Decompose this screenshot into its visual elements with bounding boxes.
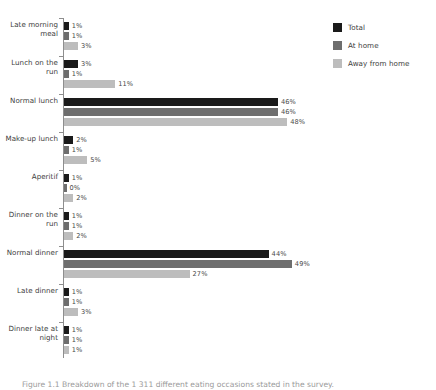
bar-row: 2%	[64, 232, 87, 240]
bar-value-label: 1%	[69, 288, 83, 296]
bar-row: 0%	[64, 184, 87, 192]
bar-away-from-home	[64, 270, 190, 278]
bar-group: Dinner on the run1%1%2%	[0, 208, 436, 246]
bar-group: Late dinner1%1%3%	[0, 284, 436, 322]
bar-row: 2%	[64, 194, 87, 202]
bar-value-label: 46%	[278, 108, 296, 116]
bar-row: 1%	[64, 146, 101, 154]
bar-stack: 1%1%3%	[64, 288, 92, 318]
bar-total	[64, 98, 278, 106]
chart-legend: TotalAt homeAway from home	[333, 17, 433, 71]
bar-row: 1%	[64, 212, 87, 220]
bar-value-label: 1%	[69, 22, 83, 30]
bar-value-label: 3%	[78, 308, 92, 316]
category-label: Late morning meal	[0, 20, 58, 38]
bar-row: 49%	[64, 260, 310, 268]
bar-value-label: 1%	[69, 222, 83, 230]
bar-group: Aperitif1%0%2%	[0, 170, 436, 208]
category-label: Late dinner	[0, 286, 58, 295]
axis-tick	[59, 94, 63, 95]
bar-away-from-home	[64, 194, 73, 202]
category-label: Dinner late at night	[0, 324, 58, 342]
legend-item[interactable]: Total	[333, 17, 433, 35]
bar-stack: 2%1%5%	[64, 136, 101, 166]
legend-item[interactable]: At home	[333, 35, 433, 53]
bar-total	[64, 136, 73, 144]
bar-group: Normal dinner44%49%27%	[0, 246, 436, 284]
bar-stack: 44%49%27%	[64, 250, 310, 280]
bar-row: 46%	[64, 98, 305, 106]
bar-value-label: 1%	[69, 70, 83, 78]
bar-value-label: 0%	[67, 184, 81, 192]
bar-row: 1%	[64, 222, 87, 230]
bar-value-label: 1%	[69, 346, 83, 354]
category-label: Lunch on the run	[0, 58, 58, 76]
bar-value-label: 1%	[69, 326, 83, 334]
category-label: Normal dinner	[0, 248, 58, 257]
bar-value-label: 11%	[115, 80, 133, 88]
bar-group: Dinner late at night1%1%1%	[0, 322, 436, 360]
axis-tick	[59, 170, 63, 171]
bar-away-from-home	[64, 232, 73, 240]
bar-away-from-home	[64, 308, 78, 316]
legend-label: At home	[342, 41, 379, 50]
figure-caption: Figure 1.1 Breakdown of the 1 311 differ…	[22, 379, 422, 390]
bar-value-label: 2%	[73, 136, 87, 144]
bar-value-label: 3%	[78, 42, 92, 50]
category-label: Dinner on the run	[0, 210, 58, 228]
bar-row: 5%	[64, 156, 101, 164]
bar-row: 1%	[64, 298, 92, 306]
bar-row: 1%	[64, 336, 82, 344]
bar-value-label: 2%	[73, 232, 87, 240]
bar-value-label: 2%	[73, 194, 87, 202]
bar-stack: 1%0%2%	[64, 174, 87, 204]
bar-at-home	[64, 108, 278, 116]
legend-swatch-icon	[333, 23, 342, 32]
axis-tick	[59, 132, 63, 133]
bar-group: Normal lunch46%46%48%	[0, 94, 436, 132]
legend-swatch-icon	[333, 59, 342, 68]
bar-away-from-home	[64, 118, 287, 126]
bar-value-label: 1%	[69, 298, 83, 306]
bar-value-label: 1%	[69, 336, 83, 344]
bar-value-label: 44%	[269, 250, 287, 258]
bar-row: 11%	[64, 80, 133, 88]
bar-total	[64, 250, 269, 258]
bar-row: 1%	[64, 288, 92, 296]
horizontal-bar-chart: Late morning meal1%1%3%Lunch on the run3…	[0, 0, 436, 390]
bar-total	[64, 60, 78, 68]
axis-tick	[59, 18, 63, 19]
bar-value-label: 48%	[287, 118, 305, 126]
bar-value-label: 3%	[78, 60, 92, 68]
bar-row: 1%	[64, 174, 87, 182]
bar-value-label: 1%	[69, 212, 83, 220]
category-label: Make-up lunch	[0, 134, 58, 143]
bar-row: 2%	[64, 136, 101, 144]
bar-value-label: 1%	[69, 174, 83, 182]
bar-away-from-home	[64, 42, 78, 50]
bar-row: 46%	[64, 108, 305, 116]
bar-row: 27%	[64, 270, 310, 278]
bar-stack: 1%1%1%	[64, 326, 82, 356]
bar-row: 3%	[64, 60, 133, 68]
axis-tick	[59, 56, 63, 57]
bar-row: 1%	[64, 326, 82, 334]
legend-item[interactable]: Away from home	[333, 53, 433, 71]
bar-row: 1%	[64, 22, 92, 30]
bar-value-label: 46%	[278, 98, 296, 106]
bar-stack: 1%1%3%	[64, 22, 92, 52]
bar-row: 44%	[64, 250, 310, 258]
bar-stack: 46%46%48%	[64, 98, 305, 128]
category-label: Normal lunch	[0, 96, 58, 105]
bar-value-label: 1%	[69, 32, 83, 40]
bar-value-label: 49%	[292, 260, 310, 268]
bar-away-from-home	[64, 80, 115, 88]
bar-row: 1%	[64, 70, 133, 78]
axis-tick	[59, 246, 63, 247]
category-label: Aperitif	[0, 172, 58, 181]
bar-group: Make-up lunch2%1%5%	[0, 132, 436, 170]
axis-tick	[59, 284, 63, 285]
axis-tick	[59, 208, 63, 209]
bar-stack: 3%1%11%	[64, 60, 133, 90]
axis-tick	[59, 322, 63, 323]
